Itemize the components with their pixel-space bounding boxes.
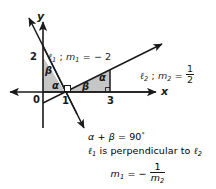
l2-slope-subscript: 2 (167, 75, 171, 83)
caption-fraction-numerator: 1 (150, 162, 166, 172)
x-tick-3: 3 (107, 96, 114, 106)
caption-angle-value: 90 (129, 131, 141, 142)
l2-equals: = (175, 70, 183, 81)
right-angle-marker (65, 86, 71, 92)
caption-plus: + (98, 131, 106, 142)
y-axis-label: y (37, 11, 44, 22)
caption-den-m: m (151, 172, 160, 183)
degree-icon: ° (141, 131, 144, 139)
caption-block: α + β = 90° ℓ1 is perpendicular to ℓ2 m1… (88, 131, 214, 188)
l2-subscript: 2 (144, 75, 148, 83)
line-l2-label: ℓ2 ; m2 = 1 2 (140, 64, 194, 85)
line-l1-label: ℓ1 ; m1 = − 2 (48, 52, 111, 64)
caption-line-perpendicular: ℓ1 is perpendicular to ℓ2 (88, 145, 214, 158)
l1-slope-symbol: m (66, 51, 75, 62)
l1-subscript: 1 (52, 56, 56, 64)
caption-m1-equals: = (127, 168, 135, 179)
caption-fraction-denominator: m2 (150, 172, 166, 185)
caption-m1-symbol: m (111, 168, 120, 179)
caption-equals: = (118, 131, 126, 142)
caption-alpha: α (88, 131, 94, 142)
angle-beta-right: β (82, 82, 89, 92)
l2-slope-denominator: 2 (186, 74, 194, 85)
caption-beta: β (109, 131, 115, 142)
caption-m1-subscript: 1 (120, 173, 124, 181)
caption-reciprocal-fraction: 1 m2 (150, 162, 166, 185)
caption-den-subscript: 2 (160, 177, 164, 185)
angle-alpha-right: α (99, 73, 106, 83)
origin-label: 0 (33, 95, 40, 105)
l2-semicolon: ; (151, 70, 154, 81)
l2-slope-fraction: 1 2 (186, 64, 194, 85)
l2-slope-numerator: 1 (186, 64, 194, 74)
angle-beta-left: β (45, 66, 52, 76)
x-axis-label: x (161, 86, 168, 97)
l2-slope-symbol: m (158, 70, 167, 81)
caption-m1-minus: − (139, 168, 147, 179)
l1-slope-subscript: 1 (75, 56, 79, 64)
caption-line-slope-relation: m1 = − 1 m2 (88, 162, 214, 185)
l1-slope-value: − 2 (94, 51, 111, 62)
x-tick-1: 1 (62, 96, 69, 106)
caption-perp-text: is perpendicular to (96, 145, 193, 156)
angle-alpha-left: α (52, 81, 59, 91)
y-tick-2: 2 (30, 52, 37, 62)
caption-line-angle-sum: α + β = 90° (88, 131, 214, 142)
caption-l2-subscript: 2 (198, 150, 202, 158)
l1-equals: = (83, 51, 91, 62)
slope-perpendicular-diagram: y x 2 0 1 3 β α β α ℓ1 ; m1 = − 2 ℓ2 ; m… (0, 0, 216, 189)
l1-semicolon: ; (59, 51, 62, 62)
